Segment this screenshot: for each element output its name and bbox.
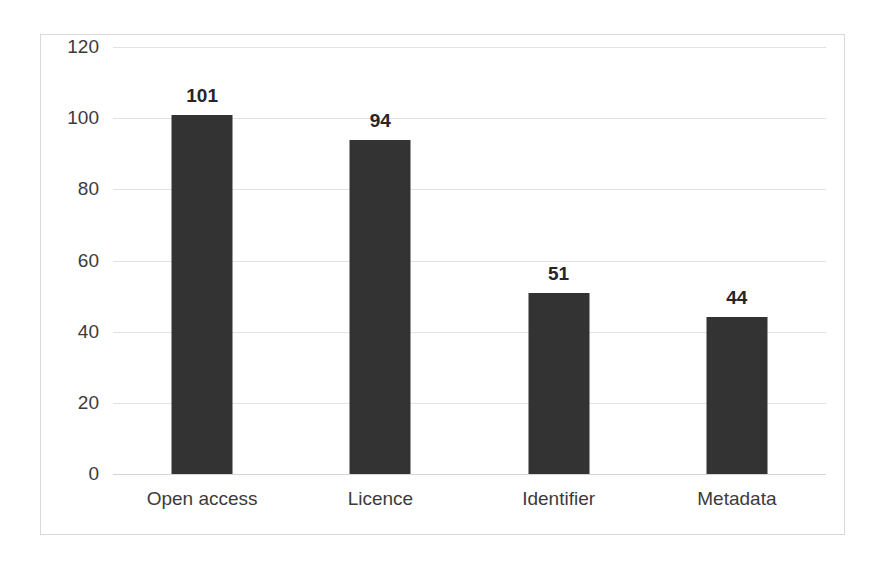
y-axis-tick-label: 0: [88, 463, 99, 485]
bar-value-label: 51: [548, 263, 569, 285]
bar-chart-figure: 020406080100120 101Open access94Licence5…: [0, 0, 884, 564]
bar-slot: 94Licence: [291, 47, 469, 474]
bar[interactable]: [172, 115, 233, 474]
bar-slot: 44Metadata: [648, 47, 826, 474]
gridline: [113, 474, 826, 475]
bar-slot: 101Open access: [113, 47, 291, 474]
x-axis-category-label: Metadata: [697, 488, 776, 510]
bar[interactable]: [350, 140, 411, 474]
x-axis-category-label: Identifier: [522, 488, 595, 510]
y-axis-tick-label: 40: [78, 321, 99, 343]
y-axis-tick-label: 60: [78, 250, 99, 272]
bar-value-label: 101: [186, 85, 218, 107]
bar[interactable]: [706, 317, 767, 474]
y-axis-tick-label: 120: [67, 36, 99, 58]
y-axis-tick-label: 100: [67, 107, 99, 129]
x-axis-category-label: Licence: [348, 488, 414, 510]
bar-value-label: 94: [370, 110, 391, 132]
y-axis-tick-label: 20: [78, 392, 99, 414]
bar-slot: 51Identifier: [470, 47, 648, 474]
plot-area: 020406080100120 101Open access94Licence5…: [113, 47, 826, 474]
y-axis-tick-label: 80: [78, 178, 99, 200]
bar[interactable]: [528, 293, 589, 474]
x-axis-category-label: Open access: [147, 488, 258, 510]
chart-plot-frame: 020406080100120 101Open access94Licence5…: [40, 34, 845, 535]
bar-value-label: 44: [726, 287, 747, 309]
